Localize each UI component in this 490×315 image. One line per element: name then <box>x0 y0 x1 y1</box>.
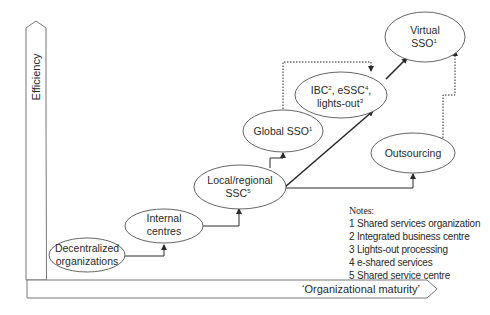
note-item: 4 e-shared services <box>349 256 480 269</box>
connector-internal-local <box>203 209 239 226</box>
node-label: Global SSO1 <box>254 125 313 137</box>
connector-local-outsourcing <box>286 174 413 188</box>
node-label: IBC2, eSSC4, <box>311 84 371 96</box>
node-ibc-essc-lights-out: IBC2, eSSC4, lights-out3 <box>295 72 387 118</box>
node-local-regional-ssc: Local/regional SSC5 <box>194 165 286 209</box>
connector-decentralized-internal <box>125 245 164 256</box>
note-item: 5 Shared service centre <box>349 269 480 282</box>
x-axis: ‘Organizational maturity’ <box>27 280 437 298</box>
x-axis-label: ‘Organizational maturity’ <box>302 283 420 295</box>
y-axis: Efficiency <box>26 21 47 280</box>
node-label: Local/regional <box>207 174 272 186</box>
node-internal-centres: Internal centres <box>125 209 203 243</box>
note-item: 2 Integrated business centre <box>349 230 480 243</box>
node-label: organizations <box>56 255 118 267</box>
node-decentralized: Decentralized organizations <box>49 238 125 272</box>
notes-legend: Notes: 1 Shared services organization 2 … <box>349 204 480 282</box>
y-axis-label: Efficiency <box>30 53 42 100</box>
note-item: 3 Lights-out processing <box>349 243 480 256</box>
connector-ibc-virtual <box>386 58 407 79</box>
node-label: Outsourcing <box>385 147 442 159</box>
node-outsourcing: Outsourcing <box>371 133 455 173</box>
notes-title: Notes: <box>349 204 480 217</box>
node-label: lights-out3 <box>317 97 364 109</box>
connector-local-global <box>270 153 283 168</box>
node-label: Internal <box>146 212 181 224</box>
note-item: 1 Shared services organization <box>349 217 480 230</box>
node-label: Virtual <box>410 24 440 36</box>
node-global-sso: Global SSO1 <box>243 110 323 152</box>
node-label: Decentralized <box>55 242 119 254</box>
node-label: centres <box>147 225 181 237</box>
node-virtual-sso: Virtual SSO1 <box>385 12 465 62</box>
connector-outsourcing-virtual <box>443 51 455 138</box>
